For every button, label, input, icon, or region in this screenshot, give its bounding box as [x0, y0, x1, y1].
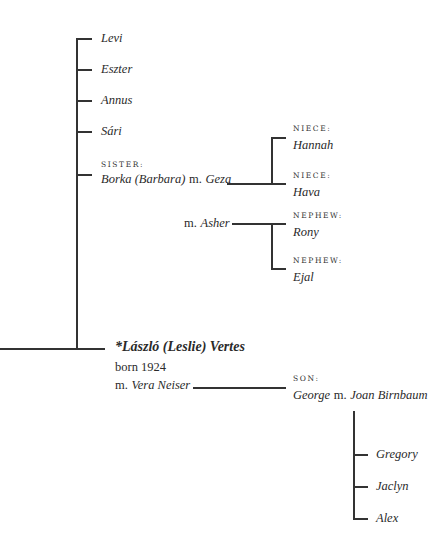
subject-born: born 1924 [115, 360, 166, 374]
asher-name: Asher [201, 216, 230, 230]
subject-spouse: Vera Neiser [132, 378, 191, 392]
subject-marriage: m. Vera Neiser [115, 378, 190, 392]
nephew-label-1: NEPHEW: [293, 209, 343, 223]
sibling-levi: Levi [101, 31, 123, 45]
sibling-tick-levi [76, 38, 92, 40]
sister-marriage-prefix: m. [189, 172, 202, 186]
nephew-bracket-line [271, 223, 273, 269]
sister-geza-line [227, 183, 272, 185]
grandchild-jaclyn: Jaclyn [376, 479, 409, 493]
sister-name: Borka (Barbara) [101, 172, 185, 186]
grandchild-gregory: Gregory [376, 447, 418, 461]
nephew-rony: Rony [293, 225, 319, 239]
niece-label-2: NIECE: [293, 169, 331, 183]
grandchild-tick-jaclyn [353, 486, 368, 488]
sibling-tick-sari [76, 131, 92, 133]
niece-label-1: NIECE: [293, 122, 331, 136]
son-entry: George m. Joan Birnbaum [293, 388, 428, 402]
niece-tick-hava [271, 183, 286, 185]
sister-second-marriage: m. Asher [184, 216, 230, 230]
nephew-ejal: Ejal [293, 270, 314, 284]
sibling-tick-eszter [76, 69, 92, 71]
niece-tick-hannah [271, 137, 286, 139]
son-label: SON: [293, 372, 320, 386]
grandchild-tick-gregory [353, 454, 368, 456]
niece-hannah: Hannah [293, 138, 333, 152]
sister-label: SISTER: [101, 158, 144, 172]
grandchild-alex: Alex [376, 511, 398, 525]
subject-name: *László (Leslie) Vertes [115, 340, 245, 354]
sibling-tick-annus [76, 100, 92, 102]
sibling-eszter: Eszter [101, 62, 132, 76]
nephew-tick-ejal [271, 268, 286, 270]
subject-vera-line [193, 387, 286, 389]
asher-marriage-prefix: m. [184, 216, 197, 230]
son-spouse: Joan Birnbaum [350, 388, 427, 402]
niece-bracket-line [271, 137, 273, 184]
grandchild-tick-alex [353, 518, 368, 520]
son-name: George [293, 388, 330, 402]
grandchildren-bracket-line [353, 411, 355, 519]
sibling-tick-sister [76, 174, 92, 176]
niece-hava: Hava [293, 185, 320, 199]
sibling-trunk-line [76, 38, 78, 349]
sister-entry: Borka (Barbara) m. Geza [101, 172, 231, 186]
asher-line [232, 223, 286, 225]
parent-base-line [0, 348, 105, 350]
sibling-annus: Annus [101, 93, 132, 107]
son-marriage-prefix: m. [334, 388, 347, 402]
sibling-sari: Sári [101, 124, 122, 138]
subject-marriage-prefix: m. [115, 378, 128, 392]
nephew-label-2: NEPHEW: [293, 254, 343, 268]
